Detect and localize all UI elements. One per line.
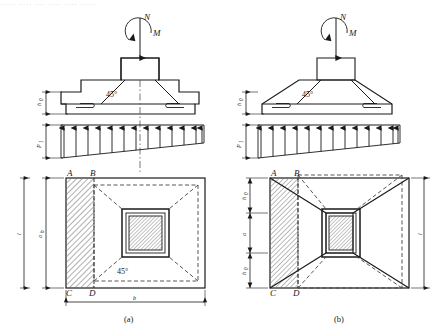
column-core-hatch-b — [329, 216, 353, 250]
axial-load-label-a: N — [143, 12, 151, 22]
panel-b-elevation: N M 45° h 0 — [236, 12, 400, 158]
footing-outline-b — [262, 80, 392, 114]
depth-label-a: h — [36, 103, 42, 106]
right-dim-label-b: l — [417, 233, 423, 235]
left-dim-bot-sub-b: 0 — [243, 267, 249, 270]
soil-pressure-diagram-b — [258, 125, 400, 158]
pressure-slope-line-b — [258, 143, 400, 158]
moment-label-b: M — [348, 28, 357, 38]
left-dim-mid-label-b: a — [241, 233, 247, 236]
corner-label-a-bottomright: D — [88, 288, 96, 298]
pressure-label-b: P — [236, 144, 242, 149]
column-stem-a — [121, 58, 159, 80]
pressure-slope-line-a — [61, 143, 204, 158]
punch-strip-hatch-b — [270, 178, 298, 288]
engineering-figure: N M 45° h 0 — [0, 0, 441, 333]
depth-label-group-a: h 0 — [36, 98, 44, 106]
punch-line-right-b — [351, 80, 375, 104]
pressure-arrows-b — [261, 128, 398, 158]
inner-dim-label-sub-a: b — [39, 230, 45, 233]
left-dim-stack-b: h 0 a h 0 — [241, 178, 268, 288]
moment-arrowhead-b — [325, 34, 331, 42]
panel-a: N M 45° h 0 — [16, 12, 205, 324]
corner-label-b-topright: B — [294, 168, 300, 178]
pressure-arrows-a — [64, 128, 202, 158]
soil-pressure-diagram-a — [61, 125, 204, 158]
corner-label-b-bottomright: D — [292, 288, 300, 298]
left-dim-top-label-b: h — [241, 197, 247, 200]
width-dim-label-a: b — [133, 295, 136, 301]
corner-label-b-bottomleft: C — [270, 288, 277, 298]
pressure-label-group-a: P 1 — [36, 140, 44, 149]
inner-dim-label-a: a — [37, 235, 43, 238]
pressure-label-group-b: P 1 — [236, 140, 244, 149]
panel-a-plan: 45° A B C D a b l b — [16, 168, 205, 306]
left-dim-bot-label-b: h — [241, 272, 247, 275]
panel-b-plan: A B C D h 0 a — [241, 168, 430, 298]
column-core-hatch-a — [129, 216, 162, 250]
height-dim-label-a: l — [16, 233, 22, 235]
footing-outline-a — [61, 58, 199, 114]
figure-svg: N M 45° h 0 — [0, 0, 441, 333]
left-dim-top-sub-b: 0 — [243, 192, 249, 195]
pressure-label-sub-b: 1 — [238, 140, 244, 143]
column-stem-b — [317, 58, 355, 80]
corner-label-b-topleft: A — [270, 168, 277, 178]
punch-line-right-a — [155, 80, 179, 104]
corner-label-a-bottomleft: C — [66, 288, 73, 298]
pressure-label-a: P — [36, 144, 42, 149]
corner-label-a-topleft: A — [66, 168, 73, 178]
moment-arrowhead-a — [129, 34, 135, 42]
punch-angle-label-elev-a: 45° — [106, 90, 117, 99]
moment-arc-a — [125, 18, 151, 40]
punch-strip-hatch-a — [66, 178, 94, 288]
axial-load-label-b: N — [339, 12, 347, 22]
corner-label-a-topright: B — [90, 168, 96, 178]
caption-b: (b) — [334, 314, 344, 324]
moment-label-a: M — [152, 28, 161, 38]
punch-angle-label-plan-a: 45° — [117, 267, 128, 276]
caption-a: (a) — [124, 314, 134, 324]
moment-arc-b — [321, 18, 347, 40]
pressure-label-sub-a: 1 — [38, 140, 44, 143]
left-dim-top-label-group-b: h 0 — [241, 192, 249, 200]
depth-label-sub-b: 0 — [238, 98, 244, 101]
depth-label-group-b: h 0 — [236, 98, 244, 106]
depth-label-b: h — [236, 103, 242, 106]
panel-b: N M 45° h 0 — [236, 12, 430, 324]
punch-angle-label-elev-b: 45° — [302, 90, 313, 99]
inner-dim-label-group-a: a b — [37, 230, 45, 238]
left-dim-bot-label-group-b: h 0 — [241, 267, 249, 275]
panel-a-elevation: N M 45° h 0 — [36, 12, 204, 172]
depth-label-sub-a: 0 — [38, 98, 44, 101]
